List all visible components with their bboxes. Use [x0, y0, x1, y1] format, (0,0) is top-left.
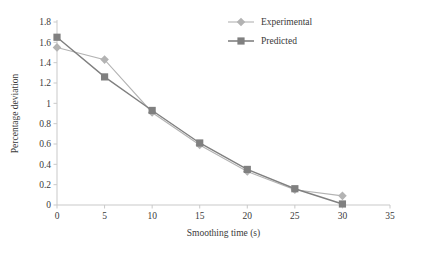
data-point-marker: [244, 166, 251, 173]
y-axis-tick-label: 0.8: [39, 119, 51, 129]
x-axis-tick-label: 20: [243, 211, 253, 221]
y-axis-tick-label: 0: [46, 200, 51, 210]
legend-swatch-marker: [237, 18, 246, 27]
data-point-marker: [53, 34, 60, 41]
series-predicted: [53, 34, 346, 208]
x-axis-tick-label: 10: [147, 211, 157, 221]
y-axis-tick-label: 0.2: [39, 180, 51, 190]
legend-label: Predicted: [261, 36, 297, 46]
y-axis-tick-label: 1.2: [39, 78, 51, 88]
x-axis-tick-label: 0: [55, 211, 60, 221]
y-axis-tick-label: 0.4: [39, 160, 51, 170]
chart-figure: 00.20.40.60.811.21.41.61.805101520253035…: [0, 0, 424, 257]
y-axis-tick-label: 1.8: [39, 17, 51, 27]
y-axis-tick-label: 0.6: [39, 139, 51, 149]
series-experimental: [53, 43, 347, 200]
line-chart-canvas: 00.20.40.60.811.21.41.61.805101520253035…: [0, 0, 424, 257]
y-axis-title: Percentage deviation: [10, 74, 20, 154]
y-axis-tick-label: 1: [46, 99, 51, 109]
data-point-marker: [101, 73, 108, 80]
data-point-marker: [196, 139, 203, 146]
y-axis-tick-label: 1.6: [39, 38, 51, 48]
x-axis-tick-label: 5: [102, 211, 107, 221]
y-axis-tick-label: 1.4: [39, 58, 51, 68]
x-axis-tick-label: 25: [290, 211, 300, 221]
x-axis-tick-label: 15: [195, 211, 205, 221]
series-line: [57, 47, 342, 195]
legend-label: Experimental: [261, 17, 313, 27]
series-line: [57, 37, 342, 204]
data-point-marker: [339, 200, 346, 207]
data-point-marker: [338, 192, 347, 201]
data-point-marker: [53, 43, 62, 52]
legend-swatch-marker: [237, 37, 244, 44]
x-axis-title: Smoothing time (s): [187, 228, 260, 239]
data-point-marker: [149, 107, 156, 114]
x-axis-tick-label: 30: [338, 211, 348, 221]
legend: ExperimentalPredicted: [228, 17, 313, 46]
data-point-marker: [291, 185, 298, 192]
x-axis-tick-label: 35: [385, 211, 395, 221]
